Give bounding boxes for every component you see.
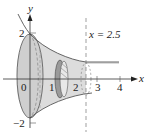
x-axis-label: x (139, 73, 144, 84)
y-axis-label: y (28, 3, 33, 14)
y-tick-2: 2 (19, 28, 25, 39)
x-tick-4: 4 (117, 82, 123, 93)
solid-of-revolution-diagram: y x 2 −2 0 1 2 3 4 x = 2.5 (0, 0, 145, 138)
annotation-x-2-5: x = 2.5 (89, 29, 121, 40)
x-axis-arrow-icon (131, 77, 138, 82)
y-tick-neg2: −2 (13, 118, 25, 129)
x-tick-2: 2 (73, 82, 79, 93)
y-axis-arrow-icon (28, 14, 33, 21)
x-tick-3: 3 (95, 82, 101, 93)
x-tick-1: 1 (49, 82, 55, 93)
x-tick-0: 0 (21, 82, 27, 93)
